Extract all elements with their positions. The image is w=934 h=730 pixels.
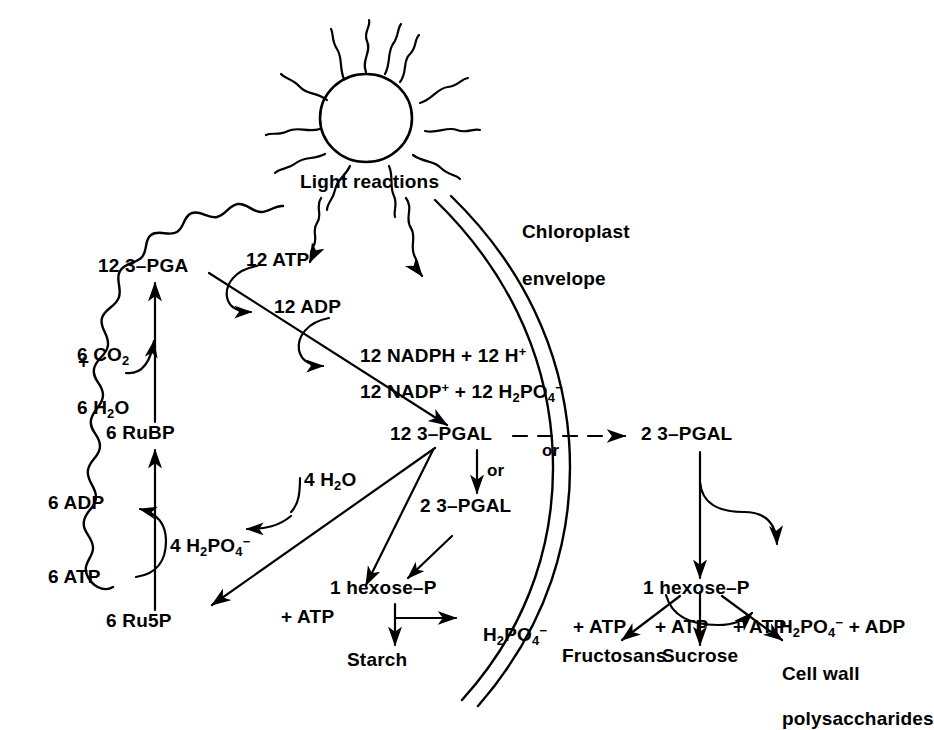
sun-disc	[320, 74, 412, 162]
nadp-po-text: PO	[520, 381, 548, 402]
sun-ray	[281, 74, 327, 100]
phosphate-starch-text: H	[483, 624, 497, 645]
or-horizontal-label: or	[542, 442, 559, 460]
envelope-label-line2: envelope	[522, 268, 606, 289]
or-vertical-label: or	[487, 462, 504, 480]
arrow-light-to-nadph	[406, 198, 422, 276]
fructosans-label: Fructosans	[562, 646, 666, 666]
pga-label: 12 3–PGA	[98, 256, 188, 276]
cellwall-label: Cell wall polysaccharides	[760, 641, 934, 730]
arrow-hexose-to-phosphate-adp	[700, 482, 777, 544]
ru5p-label: 6 Ru5P	[106, 611, 172, 631]
arrow-light-to-atp	[310, 198, 321, 262]
arrow-co2-water-input	[126, 341, 154, 373]
phosphate4-charge: −	[243, 534, 251, 549]
atp-sucrose-label: + ATP	[655, 617, 708, 637]
nadp-charge: −	[555, 380, 563, 395]
hexose-outside-label: 1 hexose–P	[643, 578, 750, 598]
chloroplast-envelope-label: Chloroplast envelope	[500, 196, 630, 315]
water-text: 6 H	[77, 397, 107, 418]
sun-ray	[385, 24, 401, 74]
light-reactions-label: Light reactions	[300, 172, 439, 192]
plus-sign: +	[78, 352, 89, 372]
water4-tail: O	[341, 469, 356, 490]
pgal2-outside-label: 2 3–PGAL	[641, 424, 732, 444]
phosphate-adp-po: PO	[800, 616, 828, 637]
phosphate-starch-charge: −	[539, 623, 547, 638]
phosphate-adp-tail: + ADP	[843, 616, 905, 637]
rubp-label: 6 RuBP	[106, 423, 175, 443]
phosphate4-po: PO	[207, 535, 235, 556]
envelope-label-line1: Chloroplast	[522, 221, 630, 242]
nadph-superscript: +	[519, 344, 527, 359]
atp-cellwall-label: + ATP	[733, 617, 786, 637]
arrow-nadph-to-nadp	[299, 318, 329, 366]
water-tail: O	[114, 397, 129, 418]
atp-starch-label: + ATP	[281, 607, 334, 627]
arrow-to-phosphate4	[247, 516, 291, 529]
sun-ray	[400, 35, 419, 82]
sucrose-label: Sucrose	[662, 646, 738, 666]
cellwall-line2: polysaccharides	[782, 708, 934, 729]
hexose-inside-label: 1 hexose–P	[330, 578, 437, 598]
arrow-atp12-to-adp12	[227, 266, 257, 312]
sun-ray	[420, 78, 468, 103]
sun-ray	[365, 20, 370, 72]
water4-label: 4 H2O	[282, 450, 356, 513]
cellwall-line1: Cell wall	[782, 663, 860, 684]
nadp-rest: + 12 H	[449, 381, 512, 402]
phosphate4-text: 4 H	[170, 535, 200, 556]
co2-subscript: 2	[122, 353, 129, 368]
phosphate-starch-label: H2PO4−	[461, 604, 547, 667]
line-2pgal-to-hexose-in	[408, 536, 452, 578]
nadp-text: 12 NADP	[360, 381, 442, 402]
sun-ray	[266, 129, 320, 135]
sun-ray	[331, 29, 344, 79]
adp6-label: 6 ADP	[48, 493, 104, 513]
nadp-phosphate-label: 12 NADP+ + 12 H2PO4−	[338, 361, 563, 424]
nadp-h2-subscript: 2	[513, 390, 520, 405]
atp6-label: 6 ATP	[48, 567, 101, 587]
adp12-label: 12 ADP	[274, 297, 341, 317]
pgal2-inside-label: 2 3–PGAL	[420, 496, 511, 516]
phosphate4-label: 4 H2PO4−	[148, 515, 250, 578]
starch-label: Starch	[347, 650, 407, 670]
water4-text: 4 H	[304, 469, 334, 490]
phosphate-starch-po: PO	[504, 624, 532, 645]
atp-fructosans-label: + ATP	[573, 617, 626, 637]
atp12-label: 12 ATP	[246, 250, 310, 270]
sun-ray	[425, 129, 480, 132]
pgal-inside-label: 12 3–PGAL	[390, 424, 492, 444]
phosphate4-po4-subscript: 4	[235, 544, 242, 559]
